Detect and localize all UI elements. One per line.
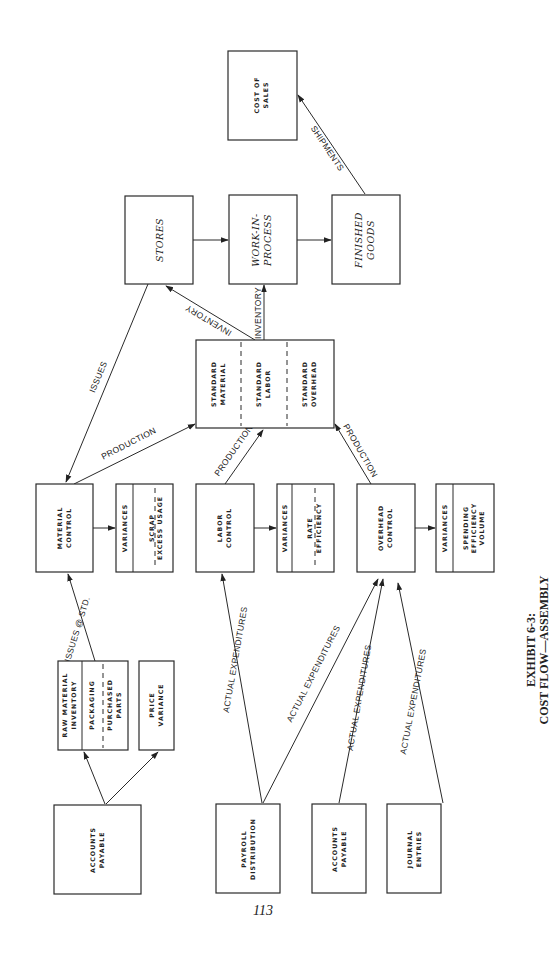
- edge-label-issues-at-std: ISSUES @ STD.: [62, 595, 91, 663]
- svg-text:VARIANCES: VARIANCES: [441, 504, 448, 552]
- node-price-variance: PRICE VARIANCE: [139, 661, 174, 750]
- caption-line-2: COST FLOW—ASSEMBLY: [537, 575, 551, 724]
- svg-text:SCRAP: SCRAP: [148, 514, 155, 542]
- edge-label-inventory-stores: INVENTORY: [184, 303, 234, 338]
- svg-text:EFFICIENCY: EFFICIENCY: [470, 503, 477, 553]
- svg-text:PURCHASED: PURCHASED: [106, 679, 113, 731]
- caption-line-1: EXHIBIT 6-3:: [524, 613, 538, 687]
- edge-production-material: [74, 424, 195, 484]
- edge-label-actual-exp-2: ACTUAL EXPENDITURES: [284, 623, 342, 723]
- edge-inventory-to-stores: [166, 286, 255, 340]
- svg-text:STANDARD: STANDARD: [255, 361, 262, 407]
- svg-text:CONTROL: CONTROL: [386, 508, 393, 548]
- svg-text:SALES: SALES: [262, 82, 269, 109]
- svg-text:DISTRIBUTION: DISTRIBUTION: [249, 818, 256, 880]
- svg-text:PAYABLE: PAYABLE: [98, 832, 105, 869]
- svg-text:PROCESS: PROCESS: [262, 214, 273, 267]
- page-number: 113: [253, 903, 273, 918]
- node-labor-variances: VARIANCES RATE EFFICIENCY: [277, 484, 334, 572]
- node-stores: STORES: [125, 196, 193, 284]
- edge-ap-to-raw: [84, 752, 105, 804]
- node-work-in-process: WORK-IN- PROCESS: [229, 195, 297, 284]
- svg-text:SPENDING: SPENDING: [462, 506, 469, 550]
- svg-text:STORES: STORES: [154, 218, 165, 262]
- svg-text:PARTS: PARTS: [115, 692, 122, 719]
- svg-text:CONTROL: CONTROL: [225, 508, 232, 548]
- edge-label-inventory-wip: INVENTORY: [253, 287, 263, 339]
- svg-text:ACCOUNTS: ACCOUNTS: [89, 827, 96, 873]
- svg-text:OVERHEAD: OVERHEAD: [310, 361, 317, 407]
- svg-text:WORK-IN-: WORK-IN-: [250, 213, 261, 267]
- svg-text:PAYABLE: PAYABLE: [340, 831, 347, 868]
- node-journal-entries: JOURNAL ENTRIES: [387, 804, 441, 893]
- svg-text:RAW MATERIAL: RAW MATERIAL: [61, 673, 68, 738]
- edge-label-actual-exp-1: ACTUAL EXPENDITURES: [221, 606, 250, 714]
- svg-text:EFFICIENCY: EFFICIENCY: [315, 503, 322, 553]
- svg-text:STANDARD: STANDARD: [210, 361, 217, 407]
- svg-text:RATE: RATE: [306, 517, 313, 539]
- svg-text:JOURNAL: JOURNAL: [406, 830, 414, 869]
- svg-text:VARIANCE: VARIANCE: [157, 684, 164, 727]
- node-overhead-control: OVERHEAD CONTROL: [357, 484, 415, 572]
- node-material-variances: VARIANCES SCRAP EXCESS USAGE: [116, 484, 173, 572]
- svg-text:STANDARD: STANDARD: [301, 361, 308, 407]
- cost-flow-diagram: SHIPMENTS INVENTORY INVENTORY ISSUES PRO…: [0, 0, 559, 964]
- edge-label-shipments: SHIPMENTS: [309, 124, 347, 173]
- svg-text:VARIANCES: VARIANCES: [281, 504, 288, 552]
- edge-label-issues: ISSUES: [87, 360, 109, 394]
- svg-text:COST OF: COST OF: [253, 76, 260, 113]
- node-finished-goods: FINISHED GOODS: [332, 195, 400, 284]
- svg-text:PAYROLL: PAYROLL: [240, 830, 247, 868]
- svg-text:CONTROL: CONTROL: [65, 508, 72, 548]
- svg-text:ENTRIES: ENTRIES: [415, 831, 422, 867]
- svg-text:VARIANCES: VARIANCES: [121, 504, 128, 552]
- svg-text:LABOR: LABOR: [216, 514, 223, 542]
- node-accounts-payable-2: ACCOUNTS PAYABLE: [312, 804, 366, 893]
- svg-text:ACCOUNTS: ACCOUNTS: [331, 826, 338, 872]
- node-payroll-distribution: PAYROLL DISTRIBUTION: [216, 804, 280, 893]
- svg-text:MATERIAL: MATERIAL: [219, 363, 226, 406]
- edge-label-production-overhead: PRODUCTION: [341, 422, 380, 479]
- svg-text:EXCESS USAGE: EXCESS USAGE: [156, 496, 163, 560]
- svg-text:MATERIAL: MATERIAL: [56, 507, 63, 550]
- node-labor-control: LABOR CONTROL: [196, 484, 254, 572]
- edge-label-actual-exp-4: ACTUAL EXPENDITURES: [398, 648, 428, 755]
- edge-label-production-material: PRODUCTION: [100, 425, 158, 461]
- svg-text:INVENTORY: INVENTORY: [70, 680, 77, 729]
- svg-text:PACKAGING: PACKAGING: [88, 680, 95, 730]
- svg-text:VOLUME: VOLUME: [478, 510, 485, 545]
- svg-text:PRICE: PRICE: [148, 692, 155, 717]
- node-cost-of-sales: COST OF SALES: [228, 51, 297, 140]
- node-raw-material-inventory: RAW MATERIAL INVENTORY PACKAGING PURCHAS…: [58, 661, 128, 750]
- node-accounts-payable-1: ACCOUNTS PAYABLE: [54, 805, 141, 894]
- svg-text:OVERHEAD: OVERHEAD: [377, 505, 384, 551]
- svg-text:GOODS: GOODS: [365, 220, 376, 260]
- svg-text:FINISHED: FINISHED: [353, 212, 364, 269]
- node-overhead-variances: VARIANCES SPENDING EFFICIENCY VOLUME: [436, 484, 494, 572]
- nodes: COST OF SALES STORES WORK-IN- PROCESS FI…: [36, 51, 494, 894]
- node-standard-costs: STANDARD MATERIAL STANDARD LABOR STANDAR…: [196, 340, 334, 428]
- svg-text:LABOR: LABOR: [264, 370, 271, 398]
- exhibit-caption: EXHIBIT 6-3: COST FLOW—ASSEMBLY: [524, 575, 551, 724]
- edge-actual-exp-journal-overhead: [398, 583, 443, 803]
- edge-ap-to-price-variance: [106, 752, 158, 804]
- edge-label-actual-exp-3: ACTUAL EXPENDITURES: [345, 644, 374, 752]
- node-material-control: MATERIAL CONTROL: [36, 484, 93, 572]
